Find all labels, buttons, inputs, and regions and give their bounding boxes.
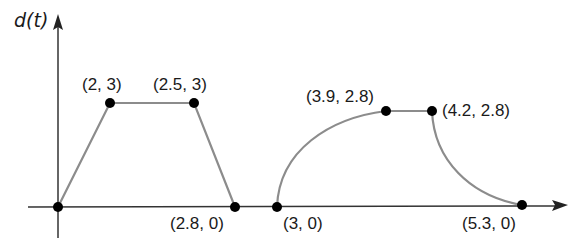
falling-curve [432,111,522,205]
point-label-3.9-2.8: (3.9, 2.8) [306,87,374,107]
point-origin [53,202,63,212]
point-label-4.2-2.8: (4.2, 2.8) [442,101,510,121]
point-label-5.3-0: (5.3, 0) [462,214,516,234]
x-axis [28,206,560,207]
point-label-2-3: (2, 3) [82,75,122,95]
trapezoid-segment [58,103,235,207]
point-4.2-2.8 [427,106,437,116]
point-2.5-3 [189,98,199,108]
point-2.8-0 [230,202,240,212]
y-axis-label: d(t) [14,9,48,31]
point-label-3-0: (3, 0) [283,214,323,234]
point-label-2.5-3: (2.5, 3) [153,75,207,95]
chart-plot-area [0,0,575,245]
point-3-0 [272,202,282,212]
point-3.9-2.8 [381,106,391,116]
point-5.3-0 [517,200,527,210]
point-label-2.8-0: (2.8, 0) [170,214,224,234]
rising-curve [277,111,386,207]
point-2-3 [105,98,115,108]
